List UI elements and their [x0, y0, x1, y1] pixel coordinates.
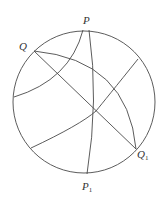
- primitive-circle: [13, 31, 155, 173]
- label-Q1: Q1: [137, 148, 149, 162]
- label-Q: Q: [19, 40, 27, 52]
- great-circle-P-P1: [87, 30, 94, 174]
- label-P1: P1: [81, 180, 93, 194]
- great-circle-Q-Q1-straight: [34, 51, 136, 149]
- curve-group: [14, 30, 138, 174]
- label-P: P: [82, 14, 90, 26]
- great-circle-diagonal: [31, 59, 138, 148]
- stereographic-diagram: P Q P1 Q1: [0, 0, 161, 200]
